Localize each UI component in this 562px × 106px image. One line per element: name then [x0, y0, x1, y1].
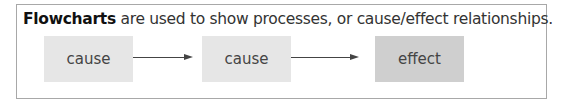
node-cause-1: cause [44, 36, 133, 82]
node-cause-2: cause [202, 36, 291, 82]
arrowhead-icon [184, 54, 193, 60]
arrow-2 [291, 57, 361, 59]
caption-bold-term: Flowcharts [23, 10, 116, 28]
node-label: cause [67, 50, 111, 68]
node-effect: effect [375, 36, 464, 82]
arrowhead-icon [350, 54, 359, 60]
node-label: cause [225, 50, 269, 68]
arrow-1 [133, 57, 193, 59]
node-label: effect [398, 50, 441, 68]
caption: Flowcharts are used to show processes, o… [23, 10, 553, 28]
caption-text: are used to show processes, or cause/eff… [116, 10, 553, 28]
